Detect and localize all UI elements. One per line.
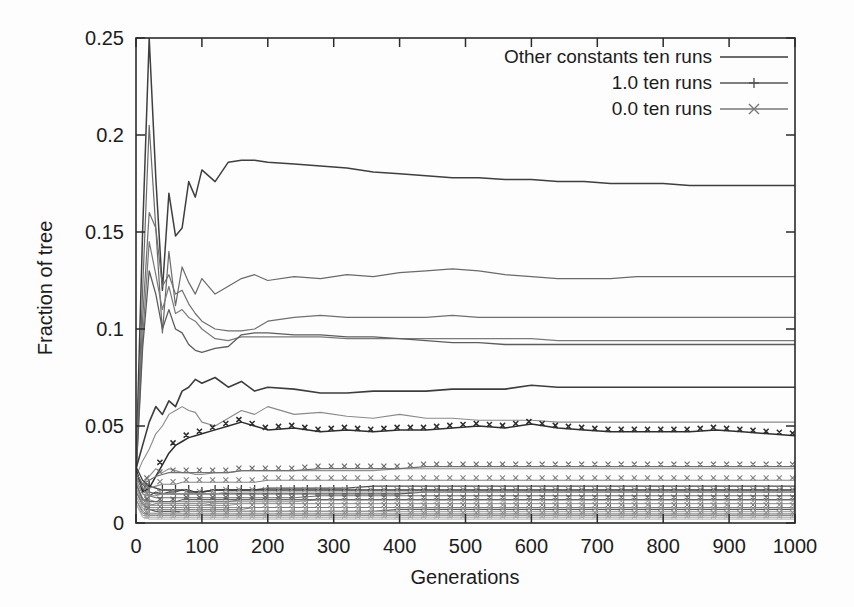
legend-layer: Other constants ten runs1.0 ten runs0.0 … xyxy=(504,46,788,119)
series-line-other-constants-run-3 xyxy=(136,213,795,475)
x-tick-label: 700 xyxy=(581,535,614,557)
y-tick-label: 0.2 xyxy=(96,124,124,146)
x-tick-label: 800 xyxy=(647,535,680,557)
legend-label-1: 1.0 ten runs xyxy=(612,72,712,93)
legend-label-0: Other constants ten runs xyxy=(504,46,712,67)
series-line-other-constants-run-5 xyxy=(136,271,795,477)
chart-figure: 0100200300400500600700800900100000.050.1… xyxy=(0,0,854,607)
y-tick-label: 0.05 xyxy=(85,415,124,437)
x-tick-label: 600 xyxy=(515,535,548,557)
x-tick-label: 0 xyxy=(130,535,141,557)
y-tick-label: 0.25 xyxy=(85,27,124,49)
x-tick-label: 300 xyxy=(317,535,350,557)
series-line-zero-point-zero-run-1 xyxy=(136,422,795,492)
legend-marker-plus-icon xyxy=(749,78,759,88)
x-tick-label: 100 xyxy=(185,535,218,557)
line-chart: 0100200300400500600700800900100000.050.1… xyxy=(0,0,854,607)
y-tick-label: 0 xyxy=(113,512,124,534)
legend-label-2: 0.0 ten runs xyxy=(612,98,712,119)
x-tick-label: 1000 xyxy=(773,535,818,557)
x-tick-label: 400 xyxy=(383,535,416,557)
y-tick-label: 0.15 xyxy=(85,221,124,243)
x-tick-label: 200 xyxy=(251,535,284,557)
y-tick-label: 0.1 xyxy=(96,318,124,340)
y-axis-title: Fraction of tree xyxy=(34,221,56,356)
x-tick-label: 500 xyxy=(449,535,482,557)
x-tick-label: 900 xyxy=(712,535,745,557)
x-axis-title: Generations xyxy=(411,566,520,588)
